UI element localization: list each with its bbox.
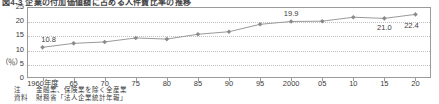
y-axis-tick-label: 5 xyxy=(2,60,24,68)
note-text: 金融業、保険業を除く全産業 xyxy=(36,86,127,94)
x-axis-tick-label: 20 xyxy=(411,80,419,88)
note-key: 注 xyxy=(14,86,30,94)
x-axis-tick-label: 85 xyxy=(194,80,202,88)
x-axis-tick-label: 75 xyxy=(132,80,140,88)
data-point-marker xyxy=(133,36,138,41)
data-point-marker xyxy=(289,19,294,24)
data-point-marker xyxy=(165,37,170,42)
note-row: 資料財務省「法人企業統計年報」 xyxy=(14,94,127,102)
data-point-marker xyxy=(320,19,325,24)
data-point-label: 10.8 xyxy=(41,36,56,44)
x-axis-tick-label: 10 xyxy=(349,80,357,88)
data-point-marker xyxy=(71,41,76,46)
data-point-marker xyxy=(351,15,356,20)
note-row: 注金融業、保険業を除く全産業 xyxy=(14,86,127,94)
x-axis-tick-label: 95 xyxy=(256,80,264,88)
data-point-marker xyxy=(382,16,387,21)
note-text: 財務省「法人企業統計年報」 xyxy=(36,94,127,102)
data-point-marker xyxy=(227,29,232,34)
note-key: 資料 xyxy=(14,94,30,102)
data-point-marker xyxy=(40,45,45,50)
line-series xyxy=(27,7,431,78)
data-point-marker xyxy=(413,12,418,17)
data-point-marker xyxy=(102,40,107,45)
data-point-label: 21.0 xyxy=(377,24,392,32)
y-axis-tick-label: 10 xyxy=(2,46,24,54)
x-axis-tick-label: 90 xyxy=(225,80,233,88)
x-axis-tick-label: 15 xyxy=(380,80,388,88)
data-point-marker xyxy=(258,22,263,27)
data-point-label: 19.9 xyxy=(284,10,299,18)
figure-notes: 注金融業、保険業を除く全産業資料財務省「法人企業統計年報」 xyxy=(14,86,127,102)
y-axis-tick-label: 25 xyxy=(2,3,24,11)
y-axis-tick-label: 15 xyxy=(2,31,24,39)
data-point-label: 22.4 xyxy=(404,22,419,30)
x-axis-tick-label: 80 xyxy=(163,80,171,88)
figure-container: 図4-3 企業の付加価値額に占める人件費比率の推移 （％） 0510152025… xyxy=(0,0,439,104)
data-point-marker xyxy=(196,32,201,37)
x-axis-tick-label: 2000 xyxy=(283,80,300,88)
y-axis-tick-label: 0 xyxy=(2,74,24,82)
x-axis-tick-label: 05 xyxy=(318,80,326,88)
y-axis-tick-label: 20 xyxy=(2,17,24,25)
